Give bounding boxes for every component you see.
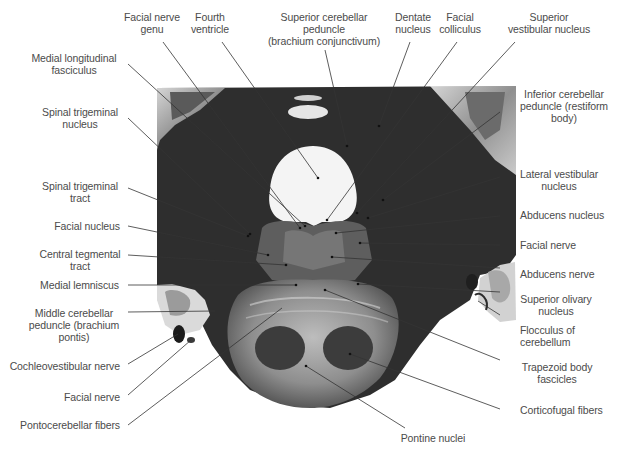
label-facial-colliculus: Facial colliculus xyxy=(439,11,481,35)
label-middle-cerebellar-peduncle: Middle cerebellar peduncle (brachium pon… xyxy=(29,307,119,343)
label-superior-vestibular-nucleus: Superior vestibular nucleus xyxy=(508,11,590,35)
label-spinal-trigeminal-tract: Spinal trigeminal tract xyxy=(42,180,118,204)
figure: Facial nerve genu Fourth ventricle Super… xyxy=(0,0,622,452)
label-medial-longitudinal-fasciculus: Medial longitudinal fasciculus xyxy=(31,52,116,76)
label-cochleovestibular-nerve: Cochleovestibular nerve xyxy=(10,360,120,372)
label-facial-nucleus: Facial nucleus xyxy=(54,220,120,232)
label-inferior-cerebellar-peduncle: Inferior cerebellar peduncle (restiform … xyxy=(520,88,608,124)
label-facial-nerve-right: Facial nerve xyxy=(520,239,576,251)
label-dentate-nucleus: Dentate nucleus xyxy=(395,11,431,35)
label-facial-nerve-left: Facial nerve xyxy=(64,391,120,403)
label-abducens-nerve: Abducens nerve xyxy=(520,268,594,280)
label-superior-olivary-nucleus: Superior olivary nucleus xyxy=(520,293,591,317)
label-corticofugal-fibers: Corticofugal fibers xyxy=(520,404,603,416)
label-central-tegmental-tract: Central tegmental tract xyxy=(39,248,120,272)
label-trapezoid-body-fascicles: Trapezoid body fascicles xyxy=(522,361,593,385)
label-pontine-nuclei: Pontine nuclei xyxy=(401,432,466,444)
label-pontocerebellar-fibers: Pontocerebellar fibers xyxy=(20,419,120,431)
label-superior-cerebellar-peduncle: Superior cerebellar peduncle (brachium c… xyxy=(268,11,380,47)
label-facial-nerve-genu: Facial nerve genu xyxy=(124,11,180,35)
label-fourth-ventricle: Fourth ventricle xyxy=(191,11,229,35)
label-spinal-trigeminal-nucleus: Spinal trigeminal nucleus xyxy=(42,106,118,130)
label-lateral-vestibular-nucleus: Lateral vestibular nucleus xyxy=(520,168,598,192)
label-abducens-nucleus: Abducens nucleus xyxy=(520,209,604,221)
label-medial-lemniscus: Medial lemniscus xyxy=(40,279,119,291)
label-flocculus-of-cerebellum: Flocculus of cerebellum xyxy=(520,324,575,348)
